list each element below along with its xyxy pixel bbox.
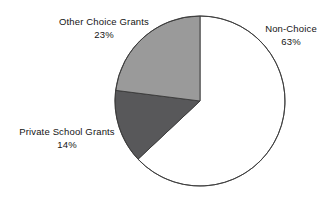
pie-chart-figure: Other Choice Grants 23% Non-Choice 63% P… [0, 0, 333, 200]
slice-label-private-school-grants-title: Private School Grants [10, 126, 124, 139]
slice-label-non-choice-title: Non-Choice [258, 23, 324, 36]
slice-label-private-school-grants-percent: 14% [10, 139, 124, 152]
slice-label-non-choice: Non-Choice 63% [258, 23, 324, 48]
slice-label-other-choice-grants-title: Other Choice Grants [48, 16, 160, 29]
slice-label-other-choice-grants: Other Choice Grants 23% [48, 16, 160, 41]
slice-label-private-school-grants: Private School Grants 14% [10, 126, 124, 151]
slice-label-other-choice-grants-percent: 23% [48, 29, 160, 42]
slice-label-non-choice-percent: 63% [258, 36, 324, 49]
